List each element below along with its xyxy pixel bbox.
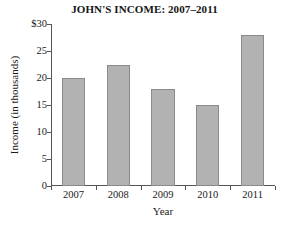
- bar-series: [51, 24, 275, 186]
- bar-2011: [241, 35, 264, 186]
- x-axis-tick-mark: [275, 186, 276, 190]
- bar-2009: [151, 89, 174, 186]
- y-axis-tick-label: 25: [37, 46, 48, 57]
- x-axis-tick-label: 2008: [108, 190, 129, 201]
- y-axis-tick-label: 15: [37, 100, 48, 111]
- x-axis-tick-labels: 20072008200920102011: [51, 190, 275, 204]
- y-axis-tick-label: 20: [37, 73, 48, 84]
- bar-2008: [107, 65, 130, 187]
- x-axis-title: Year: [51, 205, 275, 217]
- x-axis-tick-label: 2009: [153, 190, 174, 201]
- bar-2007: [62, 78, 85, 186]
- y-axis-tick-labels: 0510152025$30: [20, 24, 47, 186]
- x-axis-tick-label: 2010: [197, 190, 218, 201]
- y-axis-tick-label: $30: [31, 19, 47, 30]
- y-axis-tick-label: 10: [37, 127, 48, 138]
- bar-chart: JOHN'S INCOME: 2007–2011 Income (in thou…: [0, 0, 289, 226]
- y-axis-title-text: Income (in thousands): [8, 56, 20, 154]
- bar-2010: [196, 105, 219, 186]
- plot-area: [51, 24, 275, 186]
- chart-title: JOHN'S INCOME: 2007–2011: [0, 3, 289, 15]
- x-axis-tick-label: 2007: [63, 190, 84, 201]
- x-axis-tick-label: 2011: [242, 190, 263, 201]
